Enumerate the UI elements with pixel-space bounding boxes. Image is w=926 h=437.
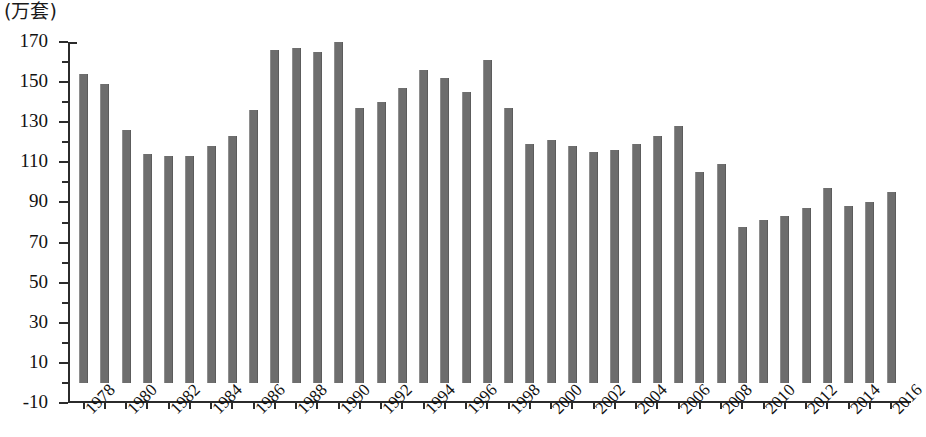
y-tick-major: 170 bbox=[59, 41, 68, 43]
bar bbox=[249, 110, 258, 383]
bar bbox=[844, 206, 853, 382]
y-tick-label: 50 bbox=[29, 272, 48, 291]
bar bbox=[632, 144, 641, 383]
y-tick-minor bbox=[62, 342, 68, 344]
bar bbox=[164, 156, 173, 383]
y-tick-label: 10 bbox=[29, 352, 48, 371]
bar bbox=[653, 136, 662, 383]
bar bbox=[398, 88, 407, 383]
y-tick-major: 90 bbox=[59, 201, 68, 203]
bar bbox=[334, 42, 343, 383]
bar bbox=[122, 130, 131, 383]
bar bbox=[738, 227, 747, 383]
bars-layer bbox=[70, 42, 911, 403]
y-tick-label: 70 bbox=[29, 232, 48, 251]
bar bbox=[440, 78, 449, 383]
bar bbox=[568, 146, 577, 383]
bar bbox=[887, 192, 896, 383]
y-tick-minor bbox=[62, 181, 68, 183]
bar bbox=[504, 108, 513, 383]
y-tick-major: 70 bbox=[59, 242, 68, 244]
bar bbox=[717, 164, 726, 383]
y-tick-minor bbox=[62, 222, 68, 224]
y-tick-label: 110 bbox=[20, 151, 48, 170]
bar bbox=[780, 216, 789, 382]
bar bbox=[462, 92, 471, 383]
y-tick-label: 30 bbox=[29, 312, 48, 331]
y-tick-label: -10 bbox=[23, 392, 48, 411]
bar bbox=[313, 52, 322, 383]
bar bbox=[695, 172, 704, 383]
y-tick-minor bbox=[62, 61, 68, 63]
plot-area: -101030507090110130150170 bbox=[68, 42, 911, 403]
bar bbox=[610, 150, 619, 383]
y-tick-label: 90 bbox=[29, 192, 48, 211]
bar bbox=[589, 152, 598, 383]
y-tick-minor bbox=[62, 141, 68, 143]
y-tick-major: 50 bbox=[59, 282, 68, 284]
bar bbox=[207, 146, 216, 383]
bar bbox=[759, 220, 768, 382]
bar bbox=[143, 154, 152, 383]
y-tick-major: 110 bbox=[59, 161, 68, 163]
bar bbox=[419, 70, 428, 383]
bar bbox=[525, 144, 534, 383]
bar bbox=[79, 74, 88, 383]
y-tick-major: 10 bbox=[59, 362, 68, 364]
y-tick-minor bbox=[62, 101, 68, 103]
bar bbox=[802, 208, 811, 382]
y-tick-minor bbox=[62, 262, 68, 264]
bar bbox=[270, 50, 279, 383]
bar bbox=[355, 108, 364, 383]
y-tick-minor bbox=[62, 382, 68, 384]
y-axis-unit-label: (万套) bbox=[4, 2, 57, 21]
y-tick-label: 150 bbox=[20, 71, 49, 90]
bar bbox=[483, 60, 492, 383]
bar bbox=[228, 136, 237, 383]
bar bbox=[377, 102, 386, 383]
bar bbox=[674, 126, 683, 383]
bar bbox=[292, 48, 301, 383]
bar bbox=[823, 188, 832, 383]
bar bbox=[100, 84, 109, 383]
bar bbox=[185, 156, 194, 383]
y-tick-minor bbox=[62, 302, 68, 304]
y-tick-major: -10 bbox=[59, 402, 68, 404]
bar bbox=[547, 140, 556, 383]
y-tick-major: 30 bbox=[59, 322, 68, 324]
y-tick-major: 130 bbox=[59, 121, 68, 123]
y-tick-major: 150 bbox=[59, 81, 68, 83]
y-tick-label: 130 bbox=[20, 111, 49, 130]
bar bbox=[865, 202, 874, 383]
y-tick-label: 170 bbox=[20, 31, 49, 50]
x-axis-labels: 1978198019821984198619881990199219941996… bbox=[70, 403, 915, 437]
